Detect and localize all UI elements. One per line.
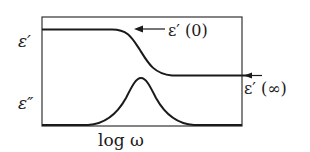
epsilon-zero-label: ε′ (0): [168, 21, 208, 40]
arrow-epsilon-infinity-icon: [244, 73, 262, 79]
epsilon-prime-curve: [42, 30, 248, 76]
relaxation-diagram: ε′ ε″ ε′ (0) ε′ (∞) log ω: [0, 0, 310, 152]
epsilon-double-prime-curve: [42, 78, 242, 125]
plot-frame: [42, 17, 242, 126]
epsilon-double-prime-label: ε″: [18, 93, 34, 113]
arrow-epsilon-zero-icon: [134, 26, 165, 33]
x-axis-label: log ω: [98, 130, 144, 150]
epsilon-prime-label: ε′: [18, 31, 31, 51]
epsilon-infinity-label: ε′ (∞): [244, 79, 287, 98]
